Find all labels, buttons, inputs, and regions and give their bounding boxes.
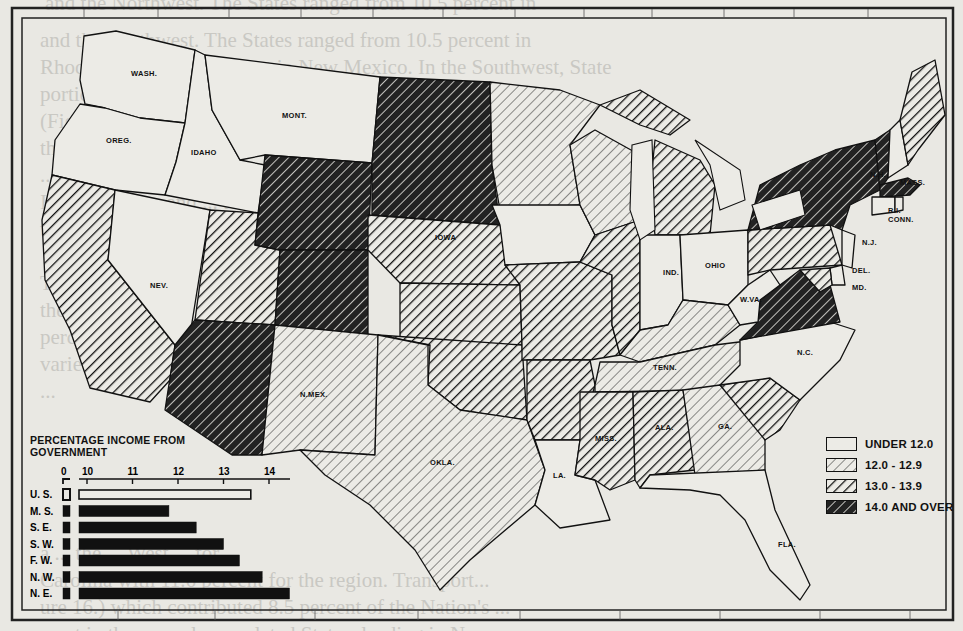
tick-label-14: 14 [264, 466, 276, 477]
bar [79, 490, 251, 499]
bar [79, 572, 262, 583]
x-ticks: 01011121314 [61, 466, 276, 484]
bar [79, 555, 239, 566]
swatch-12-to-12-9 [826, 458, 857, 472]
legend-item-under-12: UNDER 12.0 [826, 433, 953, 454]
axis-zero-stub [63, 479, 70, 484]
tick-label-12: 12 [173, 466, 185, 477]
bar-label: M. S. [30, 506, 54, 517]
legend-item-13-to-13-9: 13.0 - 13.9 [826, 475, 953, 496]
bar-chart: 01011121314 U. S.M. S.S. E.S. W.F. W.N. … [0, 0, 963, 631]
bar-label: N. E. [30, 588, 52, 599]
bars: U. S.M. S.S. E.S. W.F. W.N. W.N. E. [30, 489, 289, 599]
tick-label-10: 10 [82, 466, 94, 477]
swatch-14-and-over [826, 500, 857, 514]
tick-label-11: 11 [128, 466, 139, 477]
bar [79, 539, 224, 550]
bar [79, 588, 289, 599]
legend: UNDER 12.0 12.0 - 12.9 13.0 - 13.9 14.0 … [826, 433, 953, 517]
bar-label: N. W. [30, 572, 55, 583]
bar-label: U. S. [30, 489, 52, 500]
bar [79, 522, 196, 533]
legend-item-14-and-over: 14.0 AND OVER [826, 496, 953, 517]
tick-label-0: 0 [61, 466, 67, 477]
legend-item-12-to-12-9: 12.0 - 12.9 [826, 454, 953, 475]
bar-label: S. W. [30, 539, 54, 550]
bar-label: S. E. [30, 522, 52, 533]
tick-label-13: 13 [219, 466, 231, 477]
bar [79, 506, 169, 517]
bar-label: F. W. [30, 555, 52, 566]
swatch-13-to-13-9 [826, 479, 857, 493]
swatch-under-12 [826, 437, 857, 451]
